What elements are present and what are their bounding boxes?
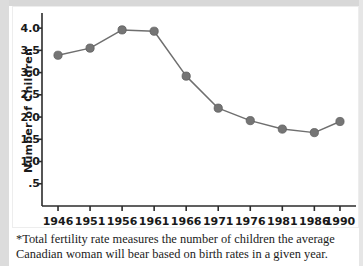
data-point-marker [310, 129, 318, 137]
x-axis-tick-label: 1951 [75, 215, 106, 228]
data-point-marker [54, 51, 62, 59]
chart-page: Number of Children .51.01.52.02.53.03.54… [0, 0, 363, 266]
data-point-marker [214, 104, 222, 112]
data-point-marker [336, 117, 344, 125]
data-series-line [58, 30, 340, 133]
data-point-marker [150, 27, 158, 35]
x-axis-tick-label: 1946 [43, 215, 74, 228]
x-axis-tick-label: 1990 [325, 215, 356, 228]
x-axis-tick-label: 1976 [235, 215, 266, 228]
x-axis-tick-label: 1981 [267, 215, 298, 228]
x-axis-tick-label: 1966 [171, 215, 202, 228]
data-point-marker [278, 125, 286, 133]
data-point-marker [86, 44, 94, 52]
x-axis-tick-label: 1971 [203, 215, 234, 228]
x-axis-tick-labels: 1946195119561961196619711976198119861990 [0, 206, 363, 228]
data-point-marker [182, 72, 190, 80]
x-axis-tick-label: 1956 [107, 215, 138, 228]
data-point-marker [118, 26, 126, 34]
chart-footnote: *Total fertility rate measures the numbe… [16, 232, 354, 262]
line-chart-plot [12, 6, 359, 228]
x-axis-tick-label: 1961 [139, 215, 170, 228]
data-point-marker [246, 117, 254, 125]
